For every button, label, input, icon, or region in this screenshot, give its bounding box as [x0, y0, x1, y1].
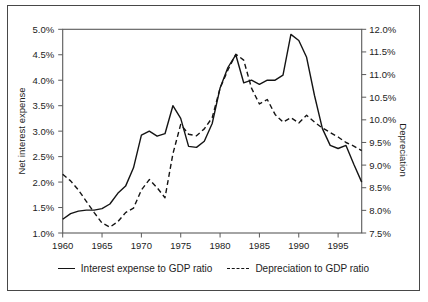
legend-label: Interest expense to GDP ratio: [81, 263, 213, 274]
x-axis-tick-label: 1990: [282, 240, 316, 251]
legend-item-depreciation: Depreciation to GDP ratio: [227, 263, 369, 274]
legend-label: Depreciation to GDP ratio: [255, 263, 369, 274]
x-axis-tick-label: 1965: [85, 240, 119, 251]
right-axis-tick-label: 9.0%: [369, 160, 403, 171]
x-axis-tick-label: 1985: [242, 240, 276, 251]
left-axis-tick-label: 2.0%: [24, 177, 54, 188]
left-axis-tick-label: 3.0%: [24, 126, 54, 137]
line-chart: [0, 0, 428, 302]
left-axis-tick-label: 1.0%: [24, 228, 54, 239]
left-axis-tick-label: 5.0%: [24, 24, 54, 35]
dashed-line-swatch: [227, 268, 249, 269]
left-axis-tick-label: 3.5%: [24, 100, 54, 111]
chart-legend: Interest expense to GDP ratio Depreciati…: [7, 263, 420, 274]
right-axis-tick-label: 7.5%: [369, 228, 403, 239]
right-axis-tick-label: 12.0%: [369, 24, 403, 35]
x-axis-tick-label: 1960: [46, 240, 80, 251]
right-axis-tick-label: 8.0%: [369, 205, 403, 216]
right-axis-tick-label: 10.0%: [369, 114, 403, 125]
x-axis-tick-label: 1970: [124, 240, 158, 251]
left-axis-tick-label: 4.5%: [24, 49, 54, 60]
left-axis-tick-label: 1.5%: [24, 202, 54, 213]
right-axis-tick-label: 9.5%: [369, 137, 403, 148]
solid-line-swatch: [58, 268, 75, 269]
right-axis-tick-label: 11.0%: [369, 69, 403, 80]
x-axis-tick-label: 1980: [203, 240, 237, 251]
x-axis-tick-label: 1995: [321, 240, 355, 251]
legend-item-interest-expense: Interest expense to GDP ratio: [58, 263, 213, 274]
right-axis-tick-label: 10.5%: [369, 92, 403, 103]
left-axis-tick-label: 2.5%: [24, 151, 54, 162]
right-axis-tick-label: 8.5%: [369, 182, 403, 193]
x-axis-tick-label: 1975: [164, 240, 198, 251]
right-axis-tick-label: 11.5%: [369, 46, 403, 57]
left-axis-tick-label: 4.0%: [24, 75, 54, 86]
